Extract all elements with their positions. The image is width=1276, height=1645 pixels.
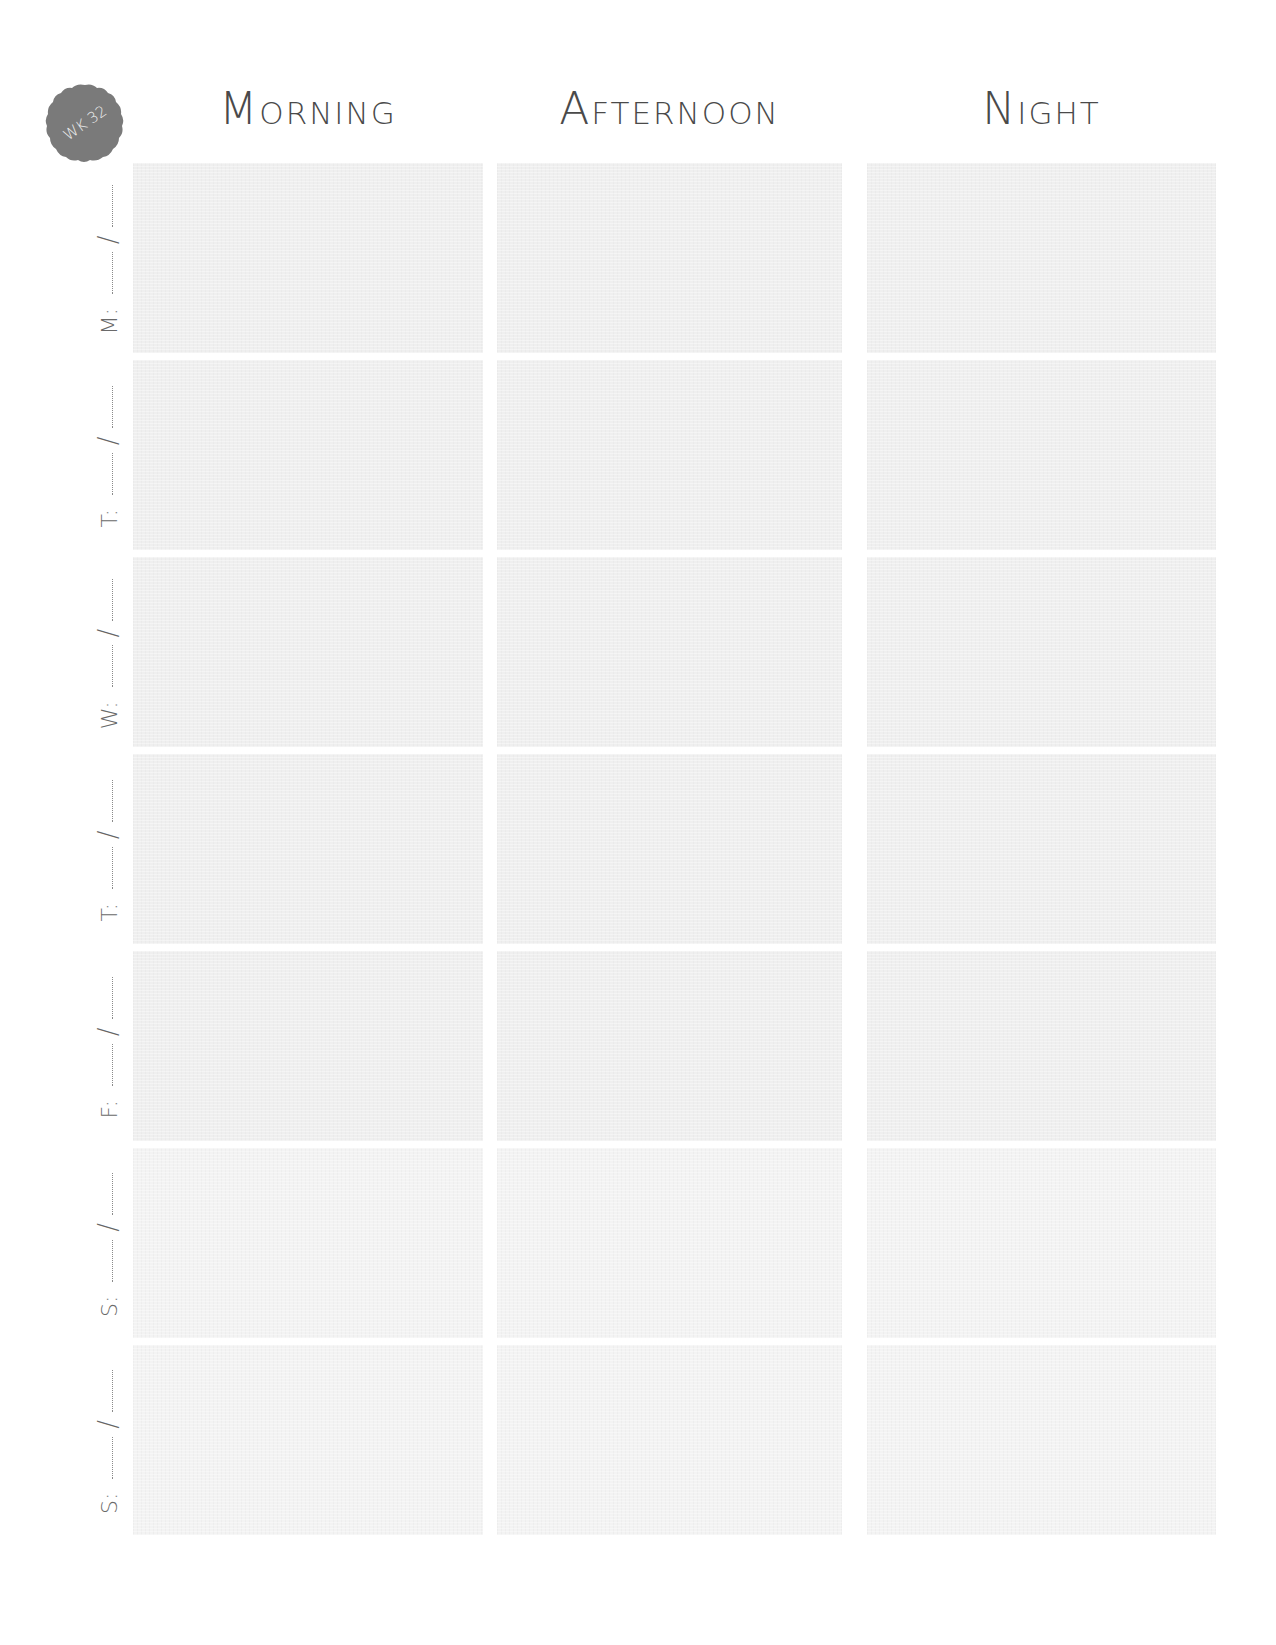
month-blank[interactable]	[111, 1437, 113, 1479]
day-blank[interactable]	[111, 579, 113, 621]
day-label: S: /	[83, 1148, 133, 1338]
date-separator: /	[93, 1420, 123, 1429]
day-blank[interactable]	[111, 1173, 113, 1215]
day-blank[interactable]	[111, 386, 113, 428]
month-blank[interactable]	[111, 645, 113, 687]
date-separator: /	[93, 1223, 123, 1232]
cell-thursday-afternoon[interactable]	[497, 754, 842, 944]
day-letter: S:	[97, 1296, 122, 1317]
month-blank[interactable]	[111, 252, 113, 294]
date-separator: /	[93, 436, 123, 445]
day-letter: F:	[97, 1100, 122, 1118]
cell-monday-morning[interactable]	[133, 163, 483, 353]
date-separator: /	[93, 235, 123, 244]
day-row-thursday: T: /	[0, 754, 1276, 944]
day-label: W: /	[83, 557, 133, 747]
cell-saturday-morning[interactable]	[133, 1148, 483, 1338]
cell-friday-afternoon[interactable]	[497, 951, 842, 1141]
day-blank[interactable]	[111, 1370, 113, 1412]
day-letter: S:	[97, 1493, 122, 1514]
month-blank[interactable]	[111, 847, 113, 889]
month-blank[interactable]	[111, 1240, 113, 1282]
cell-monday-night[interactable]	[867, 163, 1216, 353]
cell-tuesday-morning[interactable]	[133, 360, 483, 550]
day-label: S: /	[83, 1345, 133, 1535]
day-row-saturday: S: /	[0, 1148, 1276, 1338]
day-row-sunday: S: /	[0, 1345, 1276, 1535]
cell-saturday-afternoon[interactable]	[497, 1148, 842, 1338]
cell-friday-night[interactable]	[867, 951, 1216, 1141]
month-blank[interactable]	[111, 453, 113, 495]
date-separator: /	[93, 1027, 123, 1036]
cell-wednesday-afternoon[interactable]	[497, 557, 842, 747]
month-blank[interactable]	[111, 1044, 113, 1086]
day-letter: T:	[97, 903, 122, 921]
day-blank[interactable]	[111, 185, 113, 227]
cell-wednesday-morning[interactable]	[133, 557, 483, 747]
cell-wednesday-night[interactable]	[867, 557, 1216, 747]
day-row-friday: F: /	[0, 951, 1276, 1141]
cell-saturday-night[interactable]	[867, 1148, 1216, 1338]
day-row-monday: M: /	[0, 163, 1276, 353]
day-row-tuesday: T: /	[0, 360, 1276, 550]
day-label: T: /	[83, 754, 133, 944]
day-letter: W:	[97, 701, 122, 729]
day-blank[interactable]	[111, 977, 113, 1019]
cell-tuesday-night[interactable]	[867, 360, 1216, 550]
date-separator: /	[93, 629, 123, 638]
cell-tuesday-afternoon[interactable]	[497, 360, 842, 550]
date-separator: /	[93, 830, 123, 839]
day-letter: M:	[97, 308, 122, 334]
cell-thursday-night[interactable]	[867, 754, 1216, 944]
cell-sunday-night[interactable]	[867, 1345, 1216, 1535]
day-label: M: /	[83, 163, 133, 353]
cell-sunday-morning[interactable]	[133, 1345, 483, 1535]
cell-monday-afternoon[interactable]	[497, 163, 842, 353]
cell-sunday-afternoon[interactable]	[497, 1345, 842, 1535]
day-label: F: /	[83, 951, 133, 1141]
planner-grid: M: / T: / W: /	[0, 0, 1276, 1645]
cell-friday-morning[interactable]	[133, 951, 483, 1141]
day-letter: T:	[97, 509, 122, 527]
day-blank[interactable]	[111, 780, 113, 822]
cell-thursday-morning[interactable]	[133, 754, 483, 944]
day-row-wednesday: W: /	[0, 557, 1276, 747]
day-label: T: /	[83, 360, 133, 550]
